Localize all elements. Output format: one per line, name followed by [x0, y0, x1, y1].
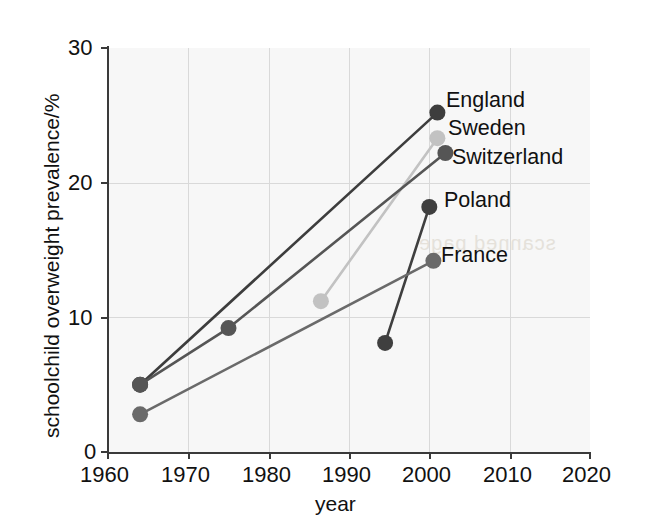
data-point-france-1: [425, 253, 441, 269]
data-point-switzerland-1: [221, 320, 237, 336]
series-france: [132, 253, 441, 423]
data-point-poland-0: [377, 335, 393, 351]
data-point-france-0: [132, 406, 148, 422]
data-point-england-1: [429, 105, 445, 121]
chart-figure: scanned page 30 20 10 0 1960 1970 1980 1…: [0, 0, 652, 532]
data-point-switzerland-0: [132, 377, 148, 393]
data-point-switzerland-2: [437, 145, 453, 161]
data-point-poland-1: [421, 199, 437, 215]
data-point-sweden-0: [313, 293, 329, 309]
series-label-england: England: [446, 90, 525, 112]
series-line-switzerland: [140, 153, 445, 385]
data-point-sweden-1: [429, 130, 445, 146]
series-line-sweden: [321, 138, 438, 301]
series-england: [132, 105, 445, 393]
series-label-switzerland: Switzerland: [452, 147, 563, 169]
series-layer: [0, 0, 652, 532]
series-label-france: France: [441, 245, 508, 267]
series-label-poland: Poland: [444, 190, 511, 212]
series-label-sweden: Sweden: [448, 118, 526, 140]
